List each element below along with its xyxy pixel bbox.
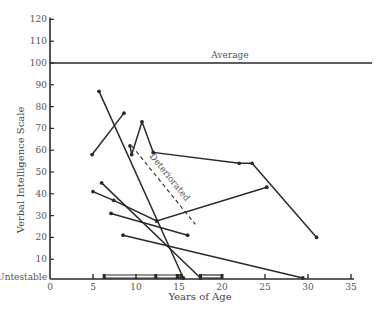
x-tick-label: 35 (345, 282, 357, 292)
data-point (109, 212, 113, 216)
data-point (180, 274, 183, 279)
data-point (122, 111, 126, 115)
x-tick-label: 30 (302, 282, 314, 292)
data-point (151, 150, 155, 154)
data-point (237, 161, 241, 165)
x-tick-label: 5 (90, 282, 96, 292)
y-tick-label: 50 (36, 167, 48, 177)
y-axis-title: Verbal Intelligence Scale (15, 107, 26, 235)
x-tick-label: 10 (130, 282, 142, 292)
series-case-7 (121, 233, 305, 280)
y-tick-label: 100 (30, 58, 47, 68)
series-case-2 (90, 111, 126, 156)
series-line (111, 213, 188, 235)
data-point (112, 198, 116, 202)
data-point (199, 274, 202, 279)
verbal-intelligence-chart: Untestable102030405060708090100110120 05… (0, 0, 384, 315)
data-point (301, 276, 305, 280)
y-tick-label: 20 (36, 232, 48, 242)
data-point (154, 274, 157, 279)
y-axis: Untestable102030405060708090100110120 (0, 14, 54, 282)
data-point (250, 161, 254, 165)
y-tick-label: 90 (36, 80, 48, 90)
y-tick-label: Untestable (0, 272, 47, 282)
average-label: Average (210, 50, 248, 60)
y-tick-label: 80 (36, 102, 48, 112)
y-tick-label: 70 (36, 123, 48, 133)
data-point (91, 190, 95, 194)
data-point (97, 89, 101, 93)
y-tick-label: 40 (36, 189, 48, 199)
y-tick-label: 30 (36, 211, 48, 221)
x-tick-label: 25 (259, 282, 271, 292)
average-reference-line: Average (50, 50, 372, 63)
data-point (221, 274, 224, 279)
data-point (140, 120, 144, 124)
data-point (265, 185, 269, 189)
deteriorated-label: Deteriorated (148, 151, 193, 203)
data-point (121, 233, 125, 237)
y-tick-label: 10 (36, 254, 48, 264)
series-line (123, 235, 303, 278)
data-point (103, 274, 106, 279)
data-point (130, 153, 134, 157)
untestable-series (103, 274, 183, 279)
data-point (155, 219, 159, 223)
x-axis-title: Years of Age (167, 291, 231, 302)
y-tick-label: 120 (30, 14, 47, 24)
x-tick-label: 0 (47, 282, 53, 292)
data-point (176, 274, 179, 279)
data-point (90, 153, 94, 157)
data-point (315, 236, 319, 240)
data-series (90, 89, 318, 279)
data-point (186, 233, 190, 237)
untestable-series (199, 274, 224, 279)
data-point (100, 181, 104, 185)
y-tick-label: 60 (36, 145, 48, 155)
series-line (92, 113, 124, 154)
y-tick-label: 110 (30, 36, 47, 46)
data-point (128, 144, 132, 148)
x-axis: 05101520253035 (47, 274, 357, 292)
